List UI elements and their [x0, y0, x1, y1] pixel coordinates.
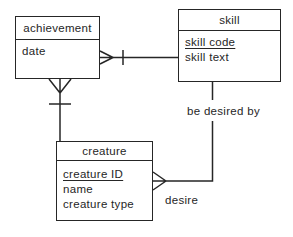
- crows-foot-many-icon: [100, 51, 113, 64]
- entity-skill: skill skill code skill text: [178, 9, 281, 82]
- entity-achievement: achievement date: [15, 16, 100, 79]
- connector-achievement-creature: [49, 79, 71, 141]
- attribute-row: creature type: [63, 197, 146, 212]
- crows-foot-many-icon: [49, 79, 71, 93]
- attribute-row: name: [63, 182, 146, 197]
- connector-line: [166, 82, 213, 181]
- relationship-label-desire: desire: [165, 193, 198, 207]
- entity-title: achievement: [16, 17, 99, 40]
- entity-title: creature: [57, 142, 152, 161]
- attribute-row: date: [22, 44, 93, 59]
- entity-attribute-list: creature ID name creature type: [57, 161, 152, 212]
- attribute-row: skill text: [185, 50, 274, 65]
- entity-attribute-list: skill code skill text: [179, 31, 280, 65]
- entity-title: skill: [179, 10, 280, 31]
- er-diagram: achievement date skill skill code skill …: [0, 0, 293, 237]
- relationship-label-be-desired-by: be desired by: [187, 104, 260, 118]
- entity-attribute-list: date: [16, 40, 99, 59]
- crows-foot-many-icon: [153, 172, 166, 190]
- attribute-row-primary-key: creature ID: [63, 167, 146, 182]
- entity-creature: creature creature ID name creature type: [56, 141, 153, 221]
- attribute-row-primary-key: skill code: [185, 35, 274, 50]
- connector-skill-creature: [153, 82, 213, 190]
- connector-achievement-skill: [100, 50, 178, 65]
